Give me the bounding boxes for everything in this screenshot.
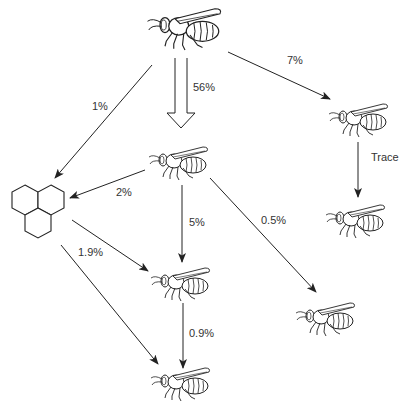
label-top-right-to-right-middle: Trace (371, 151, 399, 163)
worker-bee-bottom-icon (151, 368, 210, 401)
hollow-arrow-queen-to-middle (167, 58, 195, 128)
label-middle-to-right-lower: 0.5% (261, 214, 286, 226)
arrow-queen-to-comb (55, 65, 152, 178)
arrow-middle-to-right-lower (210, 178, 316, 292)
label-middle-to-comb: 2% (116, 186, 132, 198)
label-queen-to-top-right: 7% (287, 54, 303, 66)
arrow-queen-to-top-right (228, 52, 330, 99)
worker-bee-right-middle-icon (326, 205, 385, 238)
worker-bee-right-lower-icon (296, 303, 355, 336)
label-center-lower-to-bottom: 0.9% (189, 327, 214, 339)
arrow-comb-to-bottom (61, 245, 158, 364)
label-middle-to-center-lower: 5% (189, 216, 205, 228)
worker-bee-top-right-icon (329, 104, 388, 137)
worker-bee-center-lower-icon (151, 268, 210, 301)
label-queen-to-comb: 1% (92, 100, 108, 112)
queen-bee-icon (148, 9, 221, 50)
label-queen-to-middle: 56% (193, 81, 215, 93)
transfer-diagram (0, 0, 408, 410)
worker-bee-middle-icon (149, 147, 208, 180)
honeycomb-icon (12, 185, 64, 238)
arrow-middle-to-comb (70, 170, 145, 198)
label-comb-to-center-lower: 1.9% (78, 246, 103, 258)
